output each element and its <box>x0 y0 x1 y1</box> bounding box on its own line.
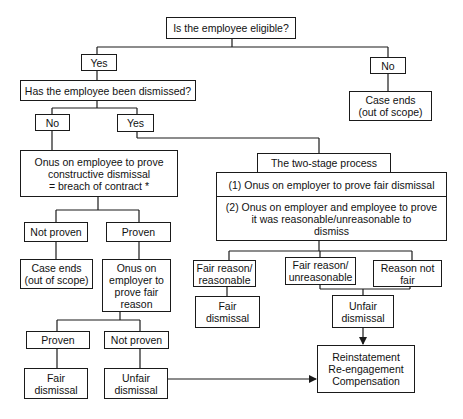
fair-dismissal-right-node: Fair dismissal <box>195 296 260 328</box>
stage-one-text: (1) Onus on employer to prove fair dismi… <box>217 173 446 197</box>
unfair-dismissal-left-node: Unfair dismissal <box>104 368 168 399</box>
no-dismissed-node: No <box>35 114 70 131</box>
case-ends-out-of-scope-right-node: Case ends (out of scope) <box>349 91 432 121</box>
unfair-dismissal-right-node: Unfair dismissal <box>332 295 394 328</box>
fair-reason-unreasonable-node: Fair reason/ unreasonable <box>285 257 356 285</box>
fair-reason-reasonable-node: Fair reason/ reasonable <box>193 260 256 287</box>
reason-not-fair-node: Reason not fair <box>373 260 442 287</box>
proven-fair-reason-node: Proven <box>26 331 90 349</box>
stage-two-text: (2) Onus on employer and employee to pro… <box>217 197 446 240</box>
yes-dismissed-node: Yes <box>117 114 154 132</box>
not-proven-constructive-node: Not proven <box>24 222 88 242</box>
onus-employee-constructive-dismissal-node: Onus on employee to prove constructive d… <box>20 150 178 197</box>
two-stage-process-title-node: The two-stage process <box>257 153 391 173</box>
remedies-node: Reinstatement Re-engagement Compensation <box>317 345 415 393</box>
eligible-question-node: Is the employee eligible? <box>166 17 296 39</box>
not-proven-fair-reason-node: Not proven <box>104 331 169 349</box>
no-eligible-node: No <box>370 57 406 74</box>
two-stage-process-node: (1) Onus on employer to prove fair dismi… <box>216 172 447 241</box>
onus-employer-fair-reason-node: Onus on employer to prove fair reason <box>102 259 171 312</box>
yes-eligible-node: Yes <box>81 54 117 71</box>
proven-constructive-node: Proven <box>106 222 171 242</box>
case-ends-out-of-scope-left-node: Case ends (out of scope) <box>20 259 93 289</box>
flowchart-canvas: Is the employee eligible? Yes No Case en… <box>0 0 463 419</box>
fair-dismissal-left-node: Fair dismissal <box>24 368 88 399</box>
dismissed-question-node: Has the employee been dismissed? <box>20 80 196 101</box>
